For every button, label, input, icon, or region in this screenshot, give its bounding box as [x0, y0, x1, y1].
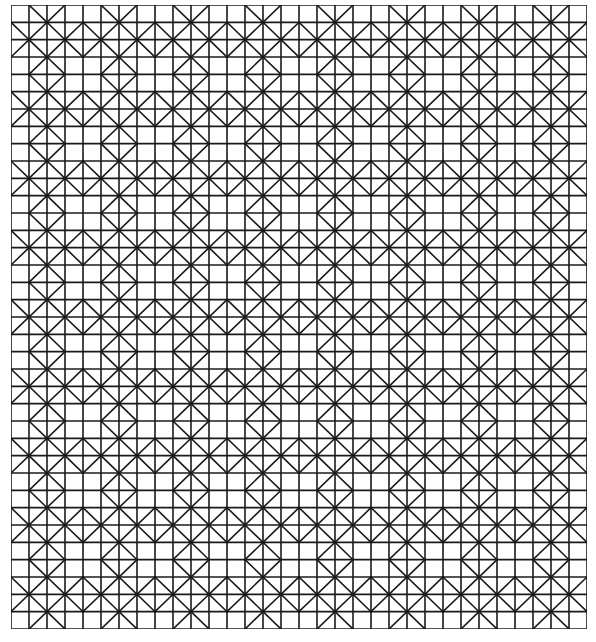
diagonal-line-down [191, 438, 209, 455]
diagonal-line-up [119, 594, 137, 611]
diagonal-line-down [407, 92, 425, 109]
diagonal-line-up [191, 490, 209, 507]
diagonal-line-down [479, 369, 497, 386]
diagonal-line-up [533, 300, 551, 317]
diagonal-line-down [389, 109, 407, 126]
diagonal-line-up [245, 473, 263, 490]
diagonal-line-down [299, 577, 317, 594]
diagonal-line-down [47, 334, 65, 351]
diagonal-line-up [479, 490, 497, 507]
diagonal-line-down [227, 92, 245, 109]
diagonal-line-up [281, 22, 299, 39]
diagonal-line-up [317, 508, 335, 525]
diagonal-line-up [263, 317, 281, 334]
diagonal-line-up [155, 525, 173, 542]
diagonal-line-down [551, 369, 569, 386]
diagonal-line-down [407, 369, 425, 386]
diagonal-line-down [479, 265, 497, 282]
diagonal-line-down [389, 248, 407, 265]
diagonal-line-down [335, 161, 353, 178]
diagonal-line-up [407, 144, 425, 161]
diagonal-line-down [191, 612, 209, 629]
diagonal-line-up [551, 525, 569, 542]
diagonal-line-up [173, 612, 191, 629]
diagonal-line-up [569, 577, 587, 594]
diagonal-line-up [407, 317, 425, 334]
diagonal-line-up [425, 577, 443, 594]
diagonal-line-up [479, 525, 497, 542]
diagonal-line-down [533, 109, 551, 126]
diagonal-line-down [461, 5, 479, 22]
diagonal-line-down [533, 144, 551, 161]
diagonal-line-down [533, 74, 551, 91]
diagonal-line-up [173, 196, 191, 213]
diagonal-line-up [263, 109, 281, 126]
diagonal-line-down [191, 369, 209, 386]
diagonal-line-down [209, 248, 227, 265]
diagonal-line-down [101, 248, 119, 265]
diagonal-line-up [317, 438, 335, 455]
diagonal-line-up [461, 369, 479, 386]
diagonal-line-down [245, 5, 263, 22]
diagonal-line-down [371, 438, 389, 455]
diagonal-line-up [353, 438, 371, 455]
diagonal-line-up [461, 161, 479, 178]
diagonal-line-down [425, 386, 443, 403]
diagonal-line-down [173, 490, 191, 507]
diagonal-line-up [479, 248, 497, 265]
diagonal-line-down [497, 525, 515, 542]
diagonal-line-down [461, 421, 479, 438]
diagonal-line-down [101, 109, 119, 126]
diagonal-line-up [443, 109, 461, 126]
diagonal-line-up [299, 178, 317, 195]
diagonal-line-up [551, 248, 569, 265]
diagonal-line-down [533, 421, 551, 438]
diagonal-line-up [479, 178, 497, 195]
diagonal-line-down [281, 386, 299, 403]
diagonal-line-down [569, 109, 587, 126]
diagonal-line-up [551, 109, 569, 126]
diagonal-line-up [101, 22, 119, 39]
diagonal-line-up [137, 300, 155, 317]
diagonal-line-up [317, 473, 335, 490]
diagonal-line-down [191, 577, 209, 594]
diagonal-line-down [11, 92, 29, 109]
diagonal-line-down [119, 230, 137, 247]
diagonal-line-up [83, 456, 101, 473]
diagonal-line-up [497, 577, 515, 594]
diagonal-line-down [497, 178, 515, 195]
diagonal-line-up [407, 248, 425, 265]
diagonal-line-up [173, 404, 191, 421]
diagonal-line-down [461, 74, 479, 91]
diagonal-line-down [461, 525, 479, 542]
diagonal-line-up [317, 404, 335, 421]
diagonal-line-down [551, 300, 569, 317]
diagonal-line-up [407, 282, 425, 299]
diagonal-line-up [83, 594, 101, 611]
diagonal-line-down [443, 369, 461, 386]
diagonal-line-down [371, 508, 389, 525]
diagonal-line-up [461, 404, 479, 421]
diagonal-line-up [317, 265, 335, 282]
diagonal-line-down [263, 404, 281, 421]
diagonal-line-up [29, 542, 47, 559]
diagonal-line-up [47, 282, 65, 299]
diagonal-line-up [227, 525, 245, 542]
diagonal-line-up [335, 178, 353, 195]
diagonal-line-up [443, 248, 461, 265]
diagonal-line-up [263, 248, 281, 265]
diagonal-line-down [551, 438, 569, 455]
diagonal-line-up [11, 525, 29, 542]
diagonal-line-down [281, 594, 299, 611]
diagonal-line-up [137, 22, 155, 39]
diagonal-line-up [263, 352, 281, 369]
diagonal-line-down [479, 126, 497, 143]
diagonal-line-up [173, 438, 191, 455]
diagonal-line-down [479, 404, 497, 421]
diagonal-line-up [245, 92, 263, 109]
diagonal-line-down [155, 369, 173, 386]
diagonal-line-up [29, 92, 47, 109]
diagonal-line-down [245, 178, 263, 195]
diagonal-line-down [83, 438, 101, 455]
diagonal-line-up [569, 161, 587, 178]
